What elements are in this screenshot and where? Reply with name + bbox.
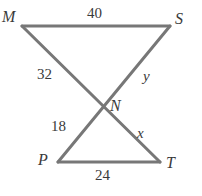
vertex-label-P: P bbox=[38, 152, 48, 168]
measure-label-NS: y bbox=[143, 69, 150, 84]
measure-label-MS: 40 bbox=[87, 6, 102, 21]
vertex-label-M: M bbox=[2, 9, 15, 25]
segment-SP bbox=[58, 26, 170, 162]
measure-label-NP: 18 bbox=[51, 119, 66, 134]
segment-MT bbox=[22, 26, 160, 162]
measure-label-MN: 32 bbox=[37, 67, 52, 82]
vertex-label-T: T bbox=[166, 155, 175, 171]
vertex-label-S: S bbox=[175, 11, 183, 27]
measure-label-PT: 24 bbox=[95, 168, 110, 183]
vertex-label-N: N bbox=[110, 98, 121, 114]
geometry-figure: M S N P T 40 32 y 18 x 24 bbox=[0, 0, 202, 196]
measure-label-NT: x bbox=[137, 126, 144, 141]
